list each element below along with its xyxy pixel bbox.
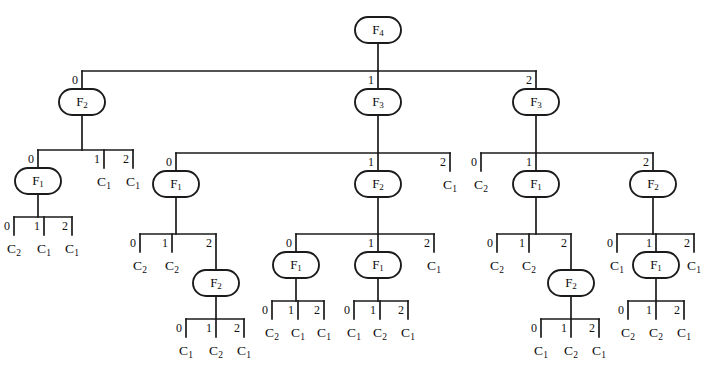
edge-label-0: 0 — [262, 303, 268, 317]
edge-label-2: 2 — [123, 152, 129, 166]
edge-label-2: 2 — [206, 236, 212, 250]
edge-label-2: 2 — [684, 236, 690, 250]
leaf-node-c1: C1 — [65, 241, 79, 258]
edge-label-1: 1 — [34, 219, 40, 233]
edge-label-0: 0 — [130, 236, 136, 250]
edge-label-2: 2 — [398, 303, 404, 317]
leaf-node-c2: C2 — [209, 343, 223, 360]
edge-label-1: 1 — [646, 236, 652, 250]
edge-label-2: 2 — [589, 321, 595, 335]
leaf-node-c1: C1 — [687, 258, 701, 275]
edge-label-1: 1 — [368, 236, 374, 250]
edge-label-2: 2 — [440, 155, 446, 169]
leaf-node-c1: C1 — [610, 258, 624, 275]
edge-label-1: 1 — [368, 73, 374, 87]
leaf-node-c2: C2 — [522, 258, 536, 275]
edge-label-0: 0 — [344, 303, 350, 317]
leaf-node-c1: C1 — [126, 174, 140, 191]
edge-label-0: 0 — [28, 152, 34, 166]
leaf-node-c2: C2 — [7, 241, 21, 258]
edge-label-1: 1 — [370, 303, 376, 317]
edge-label-0: 0 — [4, 219, 10, 233]
edge-label-2: 2 — [561, 236, 567, 250]
edge-label-0: 0 — [166, 155, 172, 169]
edge-label-1: 1 — [561, 321, 567, 335]
leaf-node-c2: C2 — [165, 258, 179, 275]
tree-svg: F4F2F1C2C1C1C1C1F3F1C2C2F2C1C2C1F2F1C2C1… — [0, 0, 720, 371]
edge-label-2: 2 — [62, 219, 68, 233]
edge-label-1: 1 — [526, 155, 532, 169]
edge-label-0: 0 — [176, 321, 182, 335]
edge-label-2: 2 — [234, 321, 240, 335]
edge-label-2: 2 — [314, 303, 320, 317]
leaf-node-c1: C1 — [677, 325, 691, 342]
leaf-node-c2: C2 — [474, 177, 488, 194]
edge-label-1: 1 — [288, 303, 294, 317]
edge-label-1: 1 — [519, 236, 525, 250]
edge-label-1: 1 — [94, 152, 100, 166]
leaf-node-c2: C2 — [490, 258, 504, 275]
edge-label-2: 2 — [674, 303, 680, 317]
leaf-node-c1: C1 — [401, 325, 415, 342]
edge-label-2: 2 — [424, 236, 430, 250]
leaf-node-c2: C2 — [649, 325, 663, 342]
edge-label-2: 2 — [526, 73, 532, 87]
edge-label-0: 0 — [618, 303, 624, 317]
edge-label-1: 1 — [162, 236, 168, 250]
edge-layer — [14, 43, 694, 337]
leaf-node-c2: C2 — [564, 343, 578, 360]
tree-diagram-canvas: F4F2F1C2C1C1C1C1F3F1C2C2F2C1C2C1F2F1C2C1… — [0, 0, 720, 371]
edge-label-1: 1 — [368, 155, 374, 169]
leaf-node-c1: C1 — [317, 325, 331, 342]
edge-label-2: 2 — [643, 155, 649, 169]
leaf-node-c1: C1 — [592, 343, 606, 360]
leaf-node-c1: C1 — [237, 343, 251, 360]
edge-label-1: 1 — [646, 303, 652, 317]
edge-label-0: 0 — [72, 73, 78, 87]
leaf-node-c2: C2 — [265, 325, 279, 342]
leaf-node-c1: C1 — [534, 343, 548, 360]
leaf-node-c1: C1 — [347, 325, 361, 342]
leaf-node-c2: C2 — [373, 325, 387, 342]
edge-label-0: 0 — [487, 236, 493, 250]
edge-label-0: 0 — [471, 155, 477, 169]
edge-label-0: 0 — [531, 321, 537, 335]
edge-label-layer: 0001212100120121001210122220101201220101… — [4, 73, 690, 335]
edge-label-0: 0 — [607, 236, 613, 250]
leaf-node-c1: C1 — [179, 343, 193, 360]
leaf-node-c1: C1 — [97, 174, 111, 191]
leaf-node-c2: C2 — [133, 258, 147, 275]
leaf-node-c1: C1 — [37, 241, 51, 258]
edge-label-1: 1 — [206, 321, 212, 335]
edge-label-0: 0 — [286, 236, 292, 250]
leaf-node-c2: C2 — [621, 325, 635, 342]
leaf-node-c1: C1 — [443, 177, 457, 194]
leaf-node-c1: C1 — [427, 258, 441, 275]
leaf-node-c1: C1 — [291, 325, 305, 342]
